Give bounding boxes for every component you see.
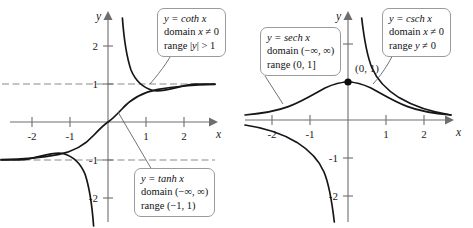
callout-sech-function: y = sech x	[267, 31, 334, 44]
callout-csch-domain: domain x ≠ 0	[389, 25, 444, 38]
callout-csch-domain-rest: ≠ 0	[430, 26, 444, 37]
x-tick-label-minus-2: -2	[27, 130, 36, 142]
x-axis-arrowhead	[445, 116, 454, 125]
callout-coth-function: y = coth x	[164, 12, 219, 25]
callout-csch-function-var: x	[427, 13, 432, 24]
callout-sech-function-text: y = sech	[267, 32, 303, 43]
callout-coth-function-text: y = coth	[164, 13, 199, 24]
callout-tanh-function-var: x	[179, 173, 184, 184]
leader-line-sech	[265, 76, 283, 104]
callout-csch-function: y = csch x	[389, 12, 444, 25]
callout-coth-domain-var: x	[198, 26, 203, 37]
callout-csch-range-rest: ≠ 0	[422, 40, 436, 51]
callout-coth-range-rest: | > 1	[197, 40, 216, 51]
callout-tanh: y = tanh x domain (−∞, ∞) range (−1, 1)	[134, 168, 215, 217]
y-axis-arrowhead	[104, 11, 113, 20]
x-axis-arrowhead	[209, 118, 218, 127]
y-tick-label-2: 2	[93, 40, 99, 52]
x-tick-label-2: 2	[421, 128, 427, 140]
x-axis-label: x	[215, 128, 222, 140]
curve-coth-negative-branch	[1, 153, 94, 226]
curve-csch-negative-branch	[245, 125, 334, 222]
callout-sech: y = sech x domain (−∞, ∞) range (0, 1]	[260, 27, 341, 76]
callout-sech-domain: domain (−∞, ∞)	[267, 44, 334, 57]
callout-csch-domain-lead: domain	[389, 26, 421, 37]
callout-csch-range: range y ≠ 0	[389, 39, 444, 52]
callout-coth-domain: domain x ≠ 0	[164, 25, 219, 38]
callout-csch-domain-var: x	[423, 26, 428, 37]
y-tick-label-minus-1: -1	[329, 152, 338, 164]
callout-coth-domain-lead: domain	[164, 26, 196, 37]
y-axis-label: y	[335, 10, 342, 23]
y-tick-label-1: 1	[93, 78, 99, 90]
x-tick-label-1: 1	[383, 128, 389, 140]
callout-tanh-function-text: y = tanh	[141, 173, 177, 184]
x-tick-label-minus-1: -1	[305, 128, 314, 140]
callout-tanh-function: y = tanh x	[141, 172, 208, 185]
marked-point-label: (0, 1)	[355, 62, 379, 75]
callout-coth-domain-rest: ≠ 0	[205, 26, 219, 37]
callout-coth-range-lead: range |	[164, 40, 192, 51]
callout-csch: y = csch x domain x ≠ 0 range y ≠ 0	[382, 8, 451, 57]
x-tick-label-2: 2	[181, 130, 187, 142]
marked-point-0-1	[344, 78, 351, 85]
callout-csch-function-text: y = csch	[389, 13, 425, 24]
callout-tanh-range: range (−1, 1)	[141, 199, 208, 212]
callout-coth: y = coth x domain x ≠ 0 range |y| > 1	[157, 8, 226, 57]
callout-csch-range-var: y	[415, 40, 420, 51]
y-tick-label-minus-1: -1	[89, 154, 98, 166]
x-tick-label-minus-1: -1	[65, 130, 74, 142]
y-axis-label: y	[95, 10, 102, 23]
x-tick-label-1: 1	[143, 130, 149, 142]
callout-tanh-domain: domain (−∞, ∞)	[141, 185, 208, 198]
y-axis-arrowhead	[344, 11, 353, 20]
callout-csch-range-lead: range	[389, 40, 412, 51]
callout-sech-range: range (0, 1]	[267, 58, 334, 71]
hyperbolic-functions-figure: -2 -1 1 2 2 1 -1 -2 x y y = coth x domai…	[0, 0, 473, 228]
callout-coth-function-var: x	[202, 13, 207, 24]
callout-sech-function-var: x	[305, 32, 310, 43]
callout-coth-range: range |y| > 1	[164, 39, 219, 52]
x-axis-label: x	[455, 126, 462, 138]
